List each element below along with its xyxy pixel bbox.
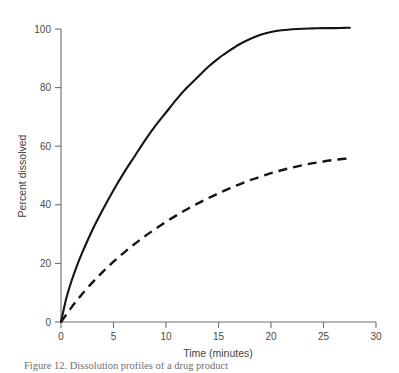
y-tick-label-80: 80	[40, 82, 52, 93]
figure-caption-strip: Figure 12. Dissolution profiles of a dru…	[0, 362, 399, 373]
y-axis-title: Percent dissolved	[16, 134, 28, 217]
x-axis-title: Time (minutes)	[183, 347, 253, 359]
y-tick-label-0: 0	[45, 317, 51, 328]
x-tick-label-0: 0	[58, 331, 64, 342]
x-tick-label-5: 5	[111, 331, 117, 342]
dissolution-line-chart: 0 20 40 60 80 100 Percent dissolved 0 5 …	[0, 0, 399, 373]
figure-container: 0 20 40 60 80 100 Percent dissolved 0 5 …	[0, 0, 399, 373]
x-tick-label-15: 15	[213, 331, 225, 342]
y-tick-label-20: 20	[40, 258, 52, 269]
x-tick-label-10: 10	[160, 331, 172, 342]
chart-background	[0, 0, 399, 373]
y-tick-label-100: 100	[34, 24, 51, 35]
x-tick-label-20: 20	[265, 331, 277, 342]
figure-caption: Figure 12. Dissolution profiles of a dru…	[0, 362, 399, 371]
y-tick-label-40: 40	[40, 199, 52, 210]
x-tick-label-30: 30	[370, 331, 382, 342]
y-tick-label-60: 60	[40, 141, 52, 152]
x-tick-label-25: 25	[318, 331, 330, 342]
